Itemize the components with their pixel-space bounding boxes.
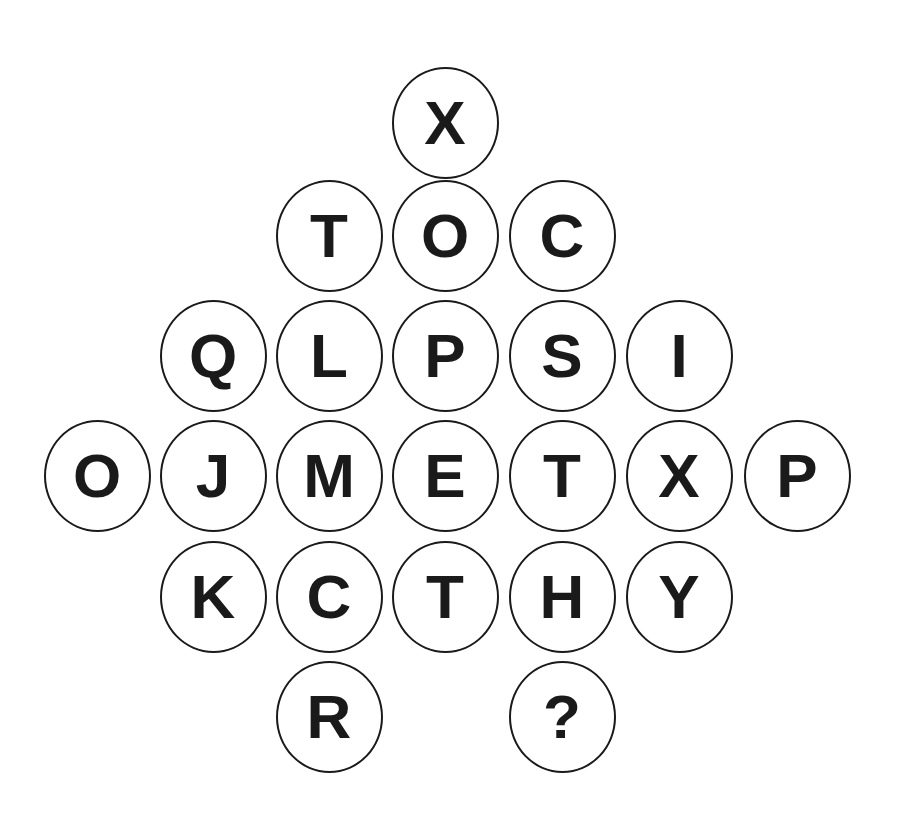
letter-circle: C	[276, 541, 383, 653]
question-mark: ?	[543, 686, 581, 748]
letter: M	[303, 445, 355, 507]
letter-circle: O	[392, 180, 499, 292]
letter: P	[776, 445, 817, 507]
letter: T	[426, 566, 464, 628]
letter-circle: O	[44, 420, 151, 532]
letter-circle: R	[276, 661, 383, 773]
letter: T	[543, 445, 581, 507]
letter: T	[310, 205, 348, 267]
letter: R	[307, 686, 352, 748]
letter: C	[540, 205, 585, 267]
letter-circle: P	[392, 300, 499, 412]
letter: I	[670, 325, 687, 387]
letter: Y	[658, 566, 699, 628]
letter-circle: T	[276, 180, 383, 292]
letter-circle: C	[509, 180, 616, 292]
letter-circle: T	[509, 420, 616, 532]
letter-circle: I	[626, 300, 733, 412]
letter: X	[658, 445, 699, 507]
letter: E	[424, 445, 465, 507]
letter-circle-puzzle: XTOCQLPSIOJMETXPKCTHYR?	[0, 0, 900, 819]
letter-circle: X	[392, 67, 499, 179]
letter: Q	[189, 325, 237, 387]
letter-circle: P	[744, 420, 851, 532]
letter: O	[421, 205, 469, 267]
letter-circle: Y	[626, 541, 733, 653]
letter: H	[540, 566, 585, 628]
letter-circle: K	[160, 541, 267, 653]
letter-circle: E	[392, 420, 499, 532]
letter: C	[307, 566, 352, 628]
letter-circle: J	[160, 420, 267, 532]
letter: J	[196, 445, 230, 507]
missing-letter-circle: ?	[509, 661, 616, 773]
letter-circle: S	[509, 300, 616, 412]
letter-circle: H	[509, 541, 616, 653]
letter-circle: Q	[160, 300, 267, 412]
letter-circle: X	[626, 420, 733, 532]
letter-circle: L	[276, 300, 383, 412]
letter-circle: M	[276, 420, 383, 532]
letter: X	[424, 92, 465, 154]
letter: P	[424, 325, 465, 387]
letter: O	[73, 445, 121, 507]
letter: K	[191, 566, 236, 628]
letter: L	[310, 325, 348, 387]
letter-circle: T	[392, 541, 499, 653]
letter: S	[541, 325, 582, 387]
